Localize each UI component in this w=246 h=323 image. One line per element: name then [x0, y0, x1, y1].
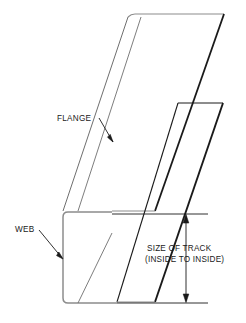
lower-flange-left-edge: [117, 103, 178, 302]
flange-label: FLANGE: [57, 114, 92, 123]
flange-callout: FLANGE: [57, 114, 113, 142]
dimension-arrowhead-down-icon: [183, 294, 189, 303]
web-callout: WEB: [15, 225, 63, 259]
web-top-edge: [63, 212, 112, 217]
dimension-text-line-2: (INSIDE TO INSIDE): [145, 255, 224, 264]
web-label: WEB: [15, 225, 35, 234]
upper-flange-right-edge: [155, 14, 224, 211]
upper-flange-shape: [63, 14, 224, 211]
track-diagram-svg: FLANGE WEB SIZE OF TRACK (INSIDE TO INSI…: [0, 0, 246, 323]
web-shape: [63, 212, 117, 303]
lower-flange-right-edge: [155, 103, 223, 302]
upper-flange-top-edge: [128, 14, 224, 17]
flange-leader-arrow-icon: [108, 134, 114, 142]
dimension-text-line-1: SIZE OF TRACK: [147, 244, 212, 253]
web-interior-fold-line: [78, 233, 112, 303]
web-bottom-edge: [63, 298, 117, 303]
track-diagram-canvas: FLANGE WEB SIZE OF TRACK (INSIDE TO INSI…: [0, 0, 246, 323]
size-of-track-dimension: SIZE OF TRACK (INSIDE TO INSIDE): [112, 214, 224, 303]
lower-flange-shape: [117, 103, 223, 302]
